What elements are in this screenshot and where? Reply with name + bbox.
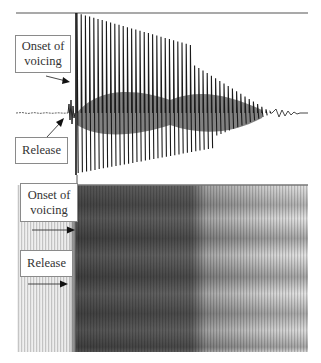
waveform-trace [77, 13, 271, 173]
onset-label-line2: voicing [24, 54, 62, 69]
spec-onset-label-line2: voicing [30, 203, 68, 218]
onset-of-voicing-label: Onset of voicing [15, 35, 71, 73]
spectrogram-panel: Onset of voicing Release [0, 175, 321, 363]
spectrogram-onset-of-voicing-label: Onset of voicing [20, 183, 78, 222]
spec-onset-label-line1: Onset of [28, 188, 71, 203]
waveform-panel: Onset of voicing Release [0, 0, 321, 175]
release-label: Release [15, 137, 68, 164]
spectrogram-release-label: Release [20, 250, 73, 277]
spec-release-label-text: Release [27, 256, 66, 271]
release-label-text: Release [22, 143, 61, 158]
onset-label-line1: Onset of [22, 39, 65, 54]
